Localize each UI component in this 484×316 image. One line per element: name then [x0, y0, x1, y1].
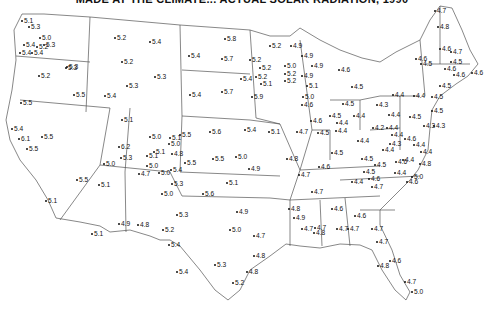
station-value-label: 5.4: [22, 41, 35, 48]
station-value: 5.0: [414, 288, 423, 295]
station-value: 5.4: [173, 166, 182, 173]
station-dot-icon: [450, 61, 452, 63]
station-value: 5.1: [48, 197, 57, 204]
station-value: 5.5: [29, 145, 38, 152]
station-value: 5.2: [287, 77, 296, 84]
station-value: 5.4: [243, 75, 252, 82]
station-value: 4.5: [434, 107, 443, 114]
station-value: 4.6: [313, 117, 322, 124]
station-dot-icon: [169, 137, 171, 139]
station-value: 4.4: [395, 91, 404, 98]
station-value-label: 4.7: [310, 188, 323, 195]
station-value-label: 5.5: [183, 159, 196, 166]
station-value-label: 4.6: [470, 69, 483, 76]
station-dot-icon: [284, 73, 286, 75]
station-value: 4.4: [354, 178, 363, 185]
station-dot-icon: [376, 241, 378, 243]
station-dot-icon: [154, 76, 156, 78]
station-value: 5.5: [23, 99, 32, 106]
station-value-label: 5.9: [250, 93, 263, 100]
station-value-label: 5.2: [248, 56, 261, 63]
station-dot-icon: [329, 115, 331, 117]
station-value: 5.1: [271, 128, 280, 135]
station-value-label: 4.6: [405, 178, 418, 185]
station-value-label: 5.0: [145, 162, 158, 169]
station-dot-icon: [288, 208, 290, 210]
station-dot-icon: [286, 158, 288, 160]
station-value: 4.9: [296, 214, 305, 221]
station-dot-icon: [184, 162, 186, 164]
station-value-label: 5.2: [231, 279, 244, 286]
station-dot-icon: [351, 181, 353, 183]
station-value-label: 5.6: [208, 128, 221, 135]
station-value-label: 4.6: [300, 101, 313, 108]
station-value-label: 5.6: [201, 190, 214, 197]
station-value: 4.4: [339, 119, 348, 126]
station-value-label: 4.6: [353, 212, 366, 219]
station-dot-icon: [391, 134, 393, 136]
station-value: 5.5: [182, 131, 191, 138]
station-value-label: 4.7: [370, 183, 383, 190]
station-value: 4.6: [392, 257, 401, 264]
station-dot-icon: [423, 125, 425, 127]
station-value-label: 5.5: [40, 133, 53, 140]
station-value-label: 4.6: [317, 163, 330, 170]
station-dot-icon: [331, 208, 333, 210]
station-value: 4.5: [377, 161, 386, 168]
station-value-label: 5.0: [410, 288, 423, 295]
station-dot-icon: [202, 193, 204, 195]
station-dot-icon: [73, 94, 75, 96]
station-value: 4.3: [436, 122, 445, 129]
station-dot-icon: [413, 144, 415, 146]
station-value: 5.0: [149, 162, 158, 169]
station-dot-icon: [301, 75, 303, 77]
station-value: 5.1: [149, 152, 158, 159]
station-value-label: 4.5: [408, 113, 421, 120]
station-value-label: 5.1: [145, 152, 158, 159]
station-value-label: 5.0: [148, 133, 161, 140]
station-dot-icon: [354, 215, 356, 217]
station-dot-icon: [221, 91, 223, 93]
station-value-label: 4.6: [388, 257, 401, 264]
station-dot-icon: [209, 131, 211, 133]
station-value: 4.5: [453, 58, 462, 65]
station-value: 5.4: [171, 241, 180, 248]
station-dot-icon: [415, 58, 417, 60]
station-value-label: 5.0: [38, 34, 51, 41]
station-value-label: 5.4: [243, 126, 256, 133]
station-value: 5.0: [232, 226, 241, 233]
station-dot-icon: [269, 45, 271, 47]
station-value-label: 4.5: [438, 82, 451, 89]
station-value: 5.3: [46, 41, 55, 48]
station-value-label: 5.2: [254, 73, 267, 80]
station-value: 5.2: [41, 72, 50, 79]
station-value-label: 4.5: [419, 60, 432, 67]
station-dot-icon: [293, 217, 295, 219]
station-dot-icon: [444, 68, 446, 70]
station-value: 4.6: [341, 66, 350, 73]
station-value: 4.6: [321, 163, 330, 170]
station-value-label: 5.1: [90, 230, 103, 237]
station-value-label: 6.1: [17, 135, 30, 142]
station-dot-icon: [388, 114, 390, 116]
station-value-label: 4.7: [375, 238, 388, 245]
station-value-label: 4.8: [312, 229, 325, 236]
station-dot-icon: [251, 96, 253, 98]
station-dot-icon: [386, 127, 388, 129]
station-value-label: 4.9: [117, 220, 130, 227]
station-value: 5.2: [117, 34, 126, 41]
station-value: 5.1: [101, 181, 110, 188]
station-dot-icon: [161, 193, 163, 195]
station-value: 4.4: [397, 169, 406, 176]
station-value-label: 4.7: [433, 7, 446, 14]
station-value: 4.9: [121, 220, 130, 227]
station-value-label: 5.1: [259, 80, 272, 87]
station-value-label: 5.5: [19, 99, 32, 106]
station-dot-icon: [310, 120, 312, 122]
station-dot-icon: [240, 78, 242, 80]
station-dot-icon: [331, 152, 333, 154]
station-dot-icon: [31, 52, 33, 54]
station-value: 4.8: [249, 268, 258, 275]
station-value: 4.7: [256, 232, 265, 239]
station-dot-icon: [146, 165, 148, 167]
